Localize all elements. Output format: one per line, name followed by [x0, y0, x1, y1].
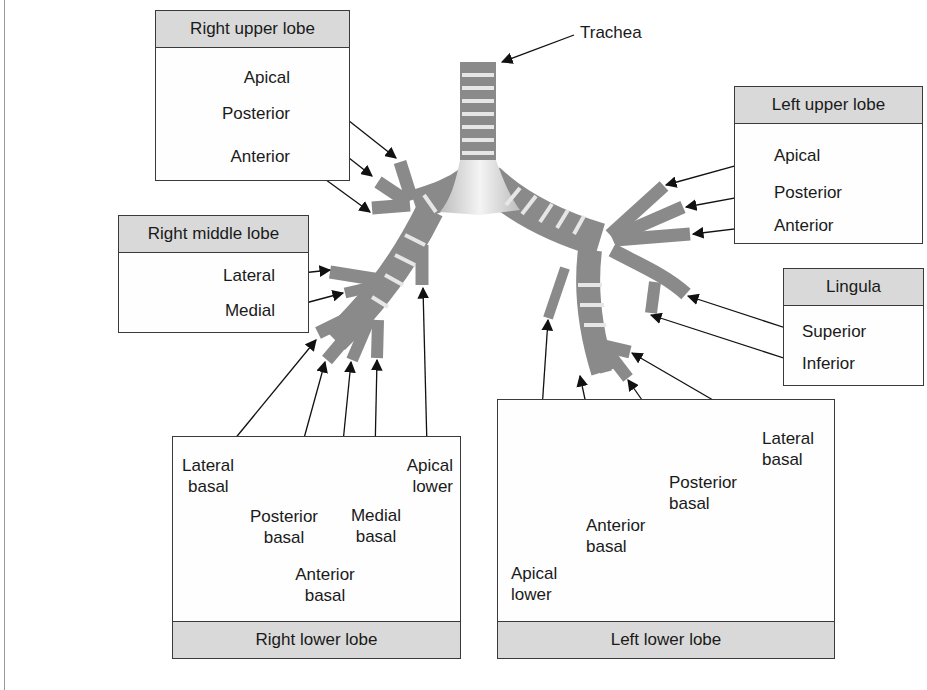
- lul-apical-label: Apical: [774, 145, 820, 166]
- lingula-inferior-label: Inferior: [802, 353, 855, 374]
- right-middle-lobe-title: Right middle lobe: [119, 216, 308, 253]
- lll-anterior-basal-label: Anterior basal: [586, 515, 646, 557]
- rll-lateral-basal-label: Lateral basal: [182, 455, 234, 497]
- left-upper-lobe-title: Left upper lobe: [735, 87, 922, 124]
- rll-posterior-basal-label: Posterior basal: [240, 506, 328, 548]
- lingula-superior-label: Superior: [802, 321, 866, 342]
- lll-posterior-basal-label: Posterior basal: [669, 472, 737, 514]
- rml-medial-label: Medial: [225, 300, 275, 321]
- lul-posterior-label: Posterior: [774, 182, 842, 203]
- lll-lateral-basal-label: Lateral basal: [762, 428, 814, 470]
- rll-medial-basal-label: Medial basal: [344, 505, 408, 547]
- airway-tubes: [318, 62, 690, 378]
- trachea-label: Trachea: [580, 22, 642, 43]
- rll-apical-lower-label: Apical lower: [395, 455, 453, 497]
- rml-lateral-label: Lateral: [223, 265, 275, 286]
- right-middle-lobe-box: Right middle lobe: [118, 215, 309, 333]
- lingula-title: Lingula: [784, 269, 923, 306]
- lll-apical-lower-label: Apical lower: [511, 563, 557, 605]
- rll-anterior-basal-label: Anterior basal: [285, 564, 365, 606]
- lul-anterior-label: Anterior: [774, 215, 834, 236]
- rul-posterior-label: Posterior: [222, 103, 290, 124]
- left-lower-lobe-title: Left lower lobe: [498, 621, 834, 658]
- right-upper-lobe-title: Right upper lobe: [156, 11, 349, 48]
- rul-anterior-label: Anterior: [230, 146, 290, 167]
- right-lower-lobe-title: Right lower lobe: [173, 621, 460, 658]
- rul-apical-label: Apical: [244, 67, 290, 88]
